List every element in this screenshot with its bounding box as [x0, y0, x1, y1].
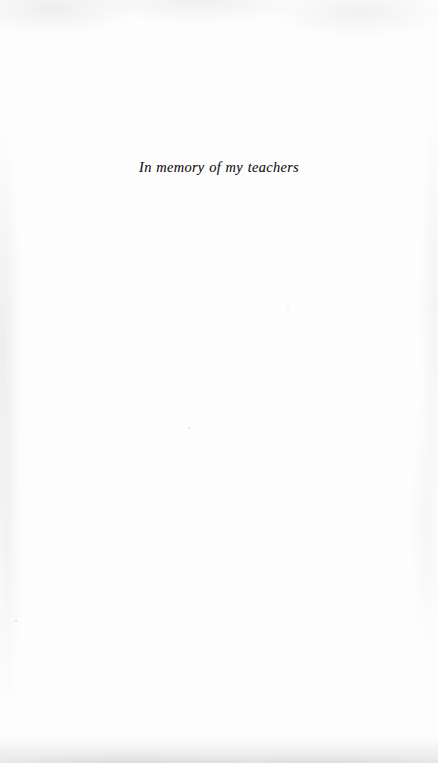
scan-bottom-shadow	[0, 737, 438, 763]
paper-grain-texture	[0, 0, 438, 763]
scanned-page: In memory of my teachers	[0, 0, 438, 763]
scan-speck	[15, 620, 17, 622]
dedication-block: In memory of my teachers	[0, 158, 438, 176]
scan-speck	[287, 306, 289, 308]
scan-speck	[188, 427, 190, 429]
dedication-text: In memory of my teachers	[139, 160, 299, 174]
